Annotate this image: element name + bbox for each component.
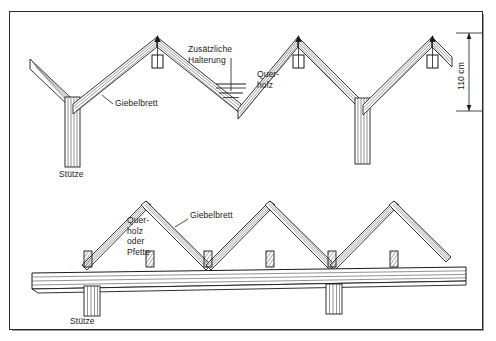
label-stuetze-bottom: Stütze <box>70 316 95 327</box>
bottom-view-group <box>32 201 466 316</box>
support-column-right-bottom <box>326 284 342 314</box>
pfette-block-1 <box>84 251 92 267</box>
label-giebelbrett-top: Giebelbrett <box>115 98 158 109</box>
leader-giebelbrett-bottom <box>175 219 188 227</box>
lower-rafter-c-up <box>330 201 399 270</box>
top-view-group <box>30 33 482 167</box>
pfette-block-4 <box>266 251 274 267</box>
support-column-left-bottom <box>84 286 100 316</box>
figure-canvas: Zusätzliche Halterung Quer- holz Giebelb… <box>0 0 496 341</box>
label-querholz-top: Quer- holz <box>257 69 279 90</box>
pfette-block-5 <box>328 251 336 267</box>
label-stuetze-top: Stütze <box>59 169 84 180</box>
figure-border: Zusätzliche Halterung Quer- holz Giebelb… <box>9 11 483 330</box>
rafter-2-down <box>298 37 360 109</box>
label-querholz-oder-pfette: Quer- holz oder Pfette <box>127 215 150 257</box>
rafter-3-up <box>363 37 432 115</box>
label-zusaetzliche-halterung: Zusätzliche Halterung <box>188 44 232 65</box>
rafter-left-outer <box>30 59 70 107</box>
leader-giebelbrett-top <box>102 95 113 104</box>
label-dimension-110cm: 110 cm <box>456 62 467 90</box>
pfette-block-3 <box>204 251 212 267</box>
pfette-block-6 <box>390 251 398 267</box>
lower-rafter-b-down <box>265 201 335 270</box>
label-giebelbrett-bottom: Giebelbrett <box>190 210 233 221</box>
